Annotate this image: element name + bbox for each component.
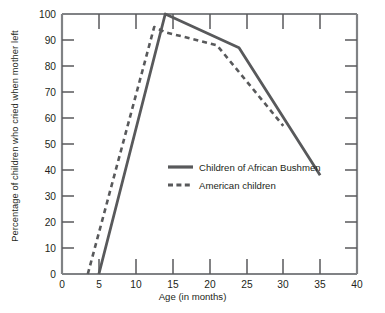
y-tick-10: 10 (45, 243, 57, 254)
y-tick-30: 30 (45, 191, 57, 202)
chart-figure: Percentage of children who cried when mo… (0, 0, 385, 313)
x-tick-0: 0 (59, 279, 65, 290)
x-tick-40: 40 (351, 279, 363, 290)
y-tick-labels: 0 10 20 30 40 50 60 70 80 90 100 (39, 9, 56, 280)
y-tick-90: 90 (45, 35, 57, 46)
x-tick-5: 5 (96, 279, 102, 290)
x-tick-20: 20 (204, 279, 216, 290)
chart-canvas: 0 10 20 30 40 50 60 70 80 90 100 0 5 10 … (0, 0, 385, 313)
plot-frame (62, 14, 357, 274)
y-tick-20: 20 (45, 217, 57, 228)
legend-label-african-bushmen: Children of African Bushmen (199, 162, 321, 173)
legend: Children of African Bushmen American chi… (168, 162, 321, 191)
y-tick-40: 40 (45, 165, 57, 176)
series-line-american-children (88, 27, 283, 274)
y-tick-70: 70 (45, 87, 57, 98)
y-tick-80: 80 (45, 61, 57, 72)
y-tick-0: 0 (50, 269, 56, 280)
y-axis-ticks (62, 40, 357, 248)
x-tick-labels: 0 5 10 15 20 25 30 35 40 (59, 279, 363, 290)
x-tick-10: 10 (130, 279, 142, 290)
series-line-african-bushmen (99, 14, 320, 274)
y-tick-100: 100 (39, 9, 56, 20)
y-tick-50: 50 (45, 139, 57, 150)
x-tick-30: 30 (277, 279, 289, 290)
legend-label-american-children: American children (199, 180, 276, 191)
x-tick-15: 15 (167, 279, 179, 290)
x-tick-25: 25 (241, 279, 253, 290)
y-tick-60: 60 (45, 113, 57, 124)
x-tick-35: 35 (314, 279, 326, 290)
